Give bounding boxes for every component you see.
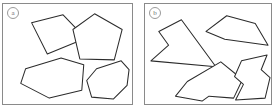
shape-concave-notched-pentagon (176, 62, 243, 101)
shape-concave-hourglass (235, 55, 270, 100)
shape-concave-arrow-star (151, 20, 216, 67)
shape-concave-dart-right (206, 16, 268, 45)
figure-root: a b (0, 0, 272, 111)
shape-convex-heptagon-right (87, 61, 129, 99)
shape-convex-pentagon (73, 14, 122, 60)
panel-b-canvas (145, 4, 271, 104)
panel-a: a (2, 3, 133, 105)
panel-a-canvas (3, 4, 132, 104)
panel-b: b (144, 3, 272, 105)
shape-convex-hexagon-left (21, 58, 84, 98)
